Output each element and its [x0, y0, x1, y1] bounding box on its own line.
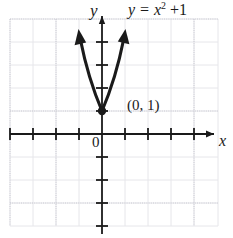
x-axis-label: x: [219, 133, 226, 149]
origin-label: 0: [92, 135, 100, 150]
grid-major-lines: [10, 19, 218, 226]
x-axis: [10, 131, 214, 138]
equation-lead: y = x: [128, 1, 161, 18]
vertex-point-label: (0, 1): [127, 98, 160, 113]
vertex-point-marker: [98, 107, 106, 115]
coordinate-plane: [0, 0, 233, 238]
grid-lines: [10, 19, 218, 226]
equation-label: y = x2 +1: [128, 2, 187, 18]
graph-figure: y x y = x2 +1 (0, 1) 0: [0, 0, 233, 238]
y-axis: [99, 16, 105, 234]
y-axis-label: y: [90, 2, 98, 19]
equation-tail: +1: [166, 1, 187, 18]
